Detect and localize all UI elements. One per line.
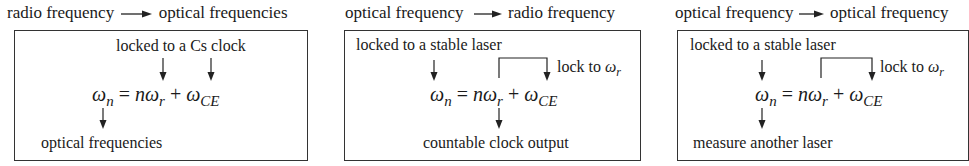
omega-r: ω <box>605 58 616 75</box>
equation: ωn = nωr + ωCE <box>755 83 882 110</box>
sub-r: r <box>159 93 165 109</box>
down-arrow-icon <box>759 108 766 129</box>
sub-n: n <box>769 93 777 109</box>
equation: ωn = nωr + ωCE <box>430 83 557 110</box>
n: n <box>135 83 145 105</box>
bottom-label: measure another laser <box>693 134 832 152</box>
sub-n: n <box>106 93 114 109</box>
omega-ce: ω <box>524 83 538 105</box>
omega-r: ω <box>808 83 822 105</box>
side-label-text: lock to <box>557 58 605 75</box>
side-label-text: lock to <box>880 58 928 75</box>
sub-n: n <box>444 93 452 109</box>
omega-ce: ω <box>849 83 863 105</box>
sub-r: r <box>822 93 828 109</box>
sub-r: r <box>616 65 621 79</box>
sub-r: r <box>497 93 503 109</box>
bottom-label: optical frequencies <box>41 134 162 152</box>
down-arrow-icon <box>160 58 167 81</box>
omega-n: ω <box>430 83 444 105</box>
n: n <box>473 83 483 105</box>
plus: + <box>833 83 844 105</box>
lock-bracket-arrow <box>499 58 551 81</box>
side-label: lock to ωr <box>557 58 621 80</box>
down-arrow-icon <box>208 58 215 81</box>
plus: + <box>508 83 519 105</box>
n: n <box>798 83 808 105</box>
omega-n: ω <box>755 83 769 105</box>
equals: = <box>119 83 130 105</box>
down-arrow-icon <box>431 60 438 81</box>
side-label: lock to ωr <box>880 58 944 80</box>
equals: = <box>782 83 793 105</box>
panel-rf-to-optical: radio frequency optical frequencies lock… <box>0 0 320 166</box>
sub-r: r <box>939 65 944 79</box>
omega-n: ω <box>92 83 106 105</box>
panel-optical-to-rf: optical frequency radio frequency locked… <box>330 0 650 166</box>
omega-r: ω <box>145 83 159 105</box>
lock-bracket-arrow <box>821 58 876 81</box>
omega-r: ω <box>483 83 497 105</box>
plus: + <box>170 83 181 105</box>
bottom-label: countable clock output <box>423 134 569 152</box>
equals: = <box>457 83 468 105</box>
sub-ce: CE <box>538 93 557 109</box>
omega-ce: ω <box>186 83 200 105</box>
sub-ce: CE <box>200 93 219 109</box>
down-arrow-icon <box>759 60 766 81</box>
panel-optical-to-optical: optical frequency optical frequency lock… <box>645 0 967 166</box>
down-arrow-icon <box>100 108 107 129</box>
sub-ce: CE <box>863 93 882 109</box>
equation: ωn = nωr + ωCE <box>92 83 219 110</box>
down-arrow-icon <box>496 108 503 129</box>
omega-r: ω <box>928 58 939 75</box>
